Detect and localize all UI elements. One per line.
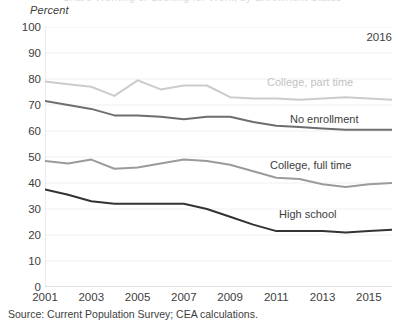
- series-label-high-school: High school: [279, 208, 336, 220]
- y-tick-label: 70: [5, 99, 41, 111]
- y-axis-title: Percent: [30, 4, 69, 16]
- y-axis-tick-labels: 0102030405060708090100: [0, 27, 41, 287]
- clipped-chart-title: Share Working or Looking for Work, by En…: [0, 0, 404, 3]
- series-label-college-full-time: College, full time: [270, 159, 351, 171]
- x-tick-label: 2007: [171, 291, 197, 303]
- x-tick-label: 2009: [217, 291, 243, 303]
- series-label-no-enrollment: No enrollment: [290, 113, 358, 125]
- x-tick-label: 2011: [264, 291, 289, 303]
- x-tick-label: 2015: [356, 291, 382, 303]
- source-note: Source: Current Population Survey; CEA c…: [8, 308, 258, 320]
- series-lines: [45, 27, 392, 287]
- x-tick-label: 2013: [310, 291, 336, 303]
- y-tick-label: 40: [5, 177, 41, 189]
- chart-page: Share Working or Looking for Work, by En…: [0, 0, 404, 325]
- series-line-high-school: [45, 190, 392, 233]
- y-tick-label: 60: [5, 125, 41, 137]
- x-tick-label: 2003: [78, 291, 104, 303]
- y-tick-label: 80: [5, 73, 41, 85]
- y-tick-label: 50: [5, 151, 41, 163]
- series-label-college-part-time: College, part time: [267, 76, 353, 88]
- x-axis-tick-labels: 20012003200520072009201120132015: [45, 291, 392, 307]
- y-tick-label: 90: [5, 47, 41, 59]
- y-tick-label: 30: [5, 203, 41, 215]
- x-tick-label: 2005: [125, 291, 151, 303]
- y-tick-label: 100: [5, 21, 41, 33]
- y-tick-label: 20: [5, 229, 41, 241]
- x-tick-label: 2001: [32, 291, 58, 303]
- y-tick-label: 10: [5, 255, 41, 267]
- plot-area: [45, 27, 392, 287]
